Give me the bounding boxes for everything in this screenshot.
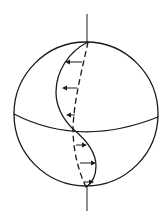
arrow-icon-lower-2 <box>80 161 96 166</box>
arrow-icon-upper-1 <box>65 60 82 65</box>
dashed-meridian <box>73 42 88 187</box>
sphere-diagram <box>0 0 168 221</box>
displacement-curve-upper <box>56 42 88 129</box>
arrow-icon-lower-1 <box>76 143 87 148</box>
equator-curve <box>14 114 158 132</box>
sphere-outline <box>14 42 158 186</box>
arrow-icon-upper-2 <box>62 86 77 91</box>
